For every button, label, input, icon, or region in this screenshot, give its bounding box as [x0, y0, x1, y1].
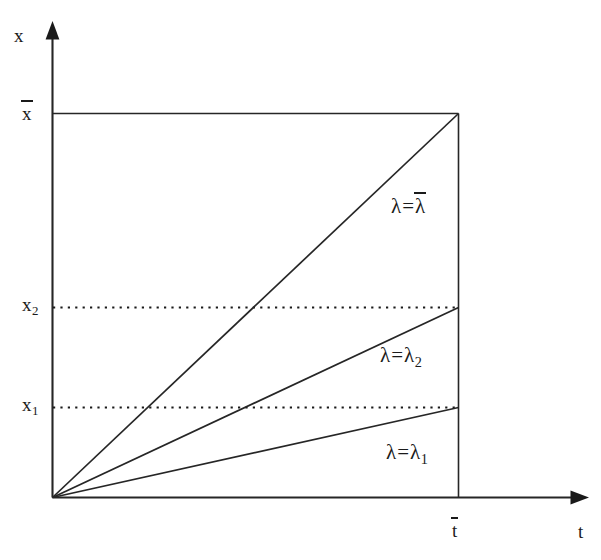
x-tick-t-bar: t	[452, 517, 457, 540]
curve-lambda-two	[53, 308, 459, 498]
overbar-stroke	[414, 192, 426, 194]
overbar-group: t	[452, 517, 457, 540]
annotation-lambda-one: λ=λ1	[386, 442, 428, 466]
figure-canvas: x t x x2 x1 t λ=λ λ=λ2 λ=λ1	[0, 0, 601, 560]
y-tick-x-two: x2	[22, 295, 38, 318]
annotation-lambda-two: λ=λ2	[380, 345, 422, 369]
y-axis-arrowhead	[46, 21, 60, 40]
overbar-stroke	[21, 100, 33, 102]
y-axis	[46, 21, 60, 498]
overbar-stroke	[451, 517, 458, 519]
overbar-group: λ	[415, 192, 425, 217]
x-axis-arrowhead	[571, 490, 590, 504]
x-axis	[53, 490, 590, 504]
overbar-group: x	[22, 100, 32, 123]
diagram-svg	[0, 0, 601, 560]
subscript-2: 2	[414, 354, 422, 370]
subscript-2: 2	[32, 303, 39, 318]
subscript-1: 1	[420, 451, 428, 467]
y-tick-x-bar: x	[22, 100, 32, 123]
x-axis-label: t	[578, 522, 583, 541]
subscript-1: 1	[32, 403, 39, 418]
y-tick-x-one: x1	[22, 395, 38, 418]
y-axis-label: x	[14, 26, 24, 45]
annotation-lambda-bar: λ=λ	[391, 192, 425, 217]
